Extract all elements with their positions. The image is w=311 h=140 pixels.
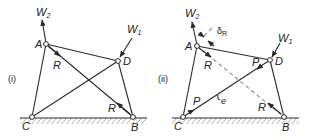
force-R-top-label: R [53, 59, 61, 71]
offset-arrow-left [199, 33, 204, 37]
node-label-D: D [275, 55, 283, 67]
joint-D [116, 59, 121, 64]
panel-ii: (ii) δR e W2 W1 A D C B R [158, 7, 299, 133]
link-AC [32, 44, 46, 117]
force-P-bottom-label: P [193, 95, 201, 107]
joint-A [195, 44, 200, 49]
load-W2-arrow [192, 22, 197, 45]
panel-label-i: (i) [8, 74, 16, 84]
load-W1-label: W1 [278, 32, 292, 45]
load-W2-label: W2 [185, 7, 199, 20]
force-R-bottom-arrow [117, 103, 130, 114]
joint-A [44, 42, 49, 47]
force-P-top-label: P [252, 56, 260, 68]
load-W2-label: W2 [36, 6, 50, 19]
mechanism-diagram: (i) W2 W1 A D C B R R (ii) [0, 0, 311, 140]
load-W1-label: W1 [127, 23, 141, 36]
joint-B [282, 115, 287, 120]
force-R-top-label: R [204, 59, 212, 71]
node-label-C: C [22, 120, 30, 132]
eccentricity-marker [218, 95, 220, 100]
force-R-bottom-label: R [258, 101, 266, 113]
ground-hatch [20, 118, 147, 124]
link-DB [118, 61, 133, 117]
joint-B [131, 115, 136, 120]
offset-arrow-right [208, 41, 214, 46]
offset-delta-label: δR [217, 26, 227, 37]
node-label-A: A [184, 40, 192, 52]
joint-C [181, 115, 186, 120]
ground-hatch [172, 118, 299, 124]
node-label-C: C [174, 120, 182, 132]
link-DB [270, 60, 284, 117]
panel-label-ii: (ii) [158, 74, 168, 84]
node-label-D: D [123, 55, 131, 67]
offset-guide-line [204, 26, 214, 36]
joint-C [30, 115, 35, 120]
load-W2-arrow [42, 20, 46, 43]
joint-D [268, 58, 273, 63]
node-label-A: A [34, 38, 42, 50]
node-label-B: B [131, 121, 138, 133]
force-R-top-arrow [199, 48, 211, 57]
node-label-B: B [282, 121, 289, 133]
link-CD [32, 61, 118, 117]
force-R-bottom-arrow [268, 103, 281, 114]
force-R-top-arrow [48, 46, 60, 56]
panel-i: (i) W2 W1 A D C B R R [8, 6, 147, 133]
force-R-bottom-label: R [108, 102, 116, 114]
eccentricity-label: e [221, 96, 226, 106]
